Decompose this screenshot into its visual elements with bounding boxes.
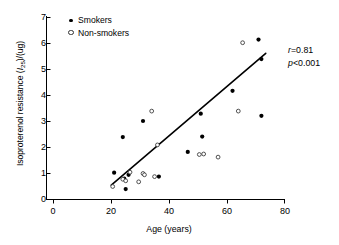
regression-line xyxy=(111,53,265,185)
data-point-smoker xyxy=(256,38,260,42)
data-point-smoker xyxy=(230,89,234,93)
data-point-smoker xyxy=(200,134,204,138)
data-point-smoker xyxy=(199,112,203,116)
y-axis-ticks xyxy=(47,18,51,174)
data-point-non-smoker xyxy=(124,179,128,183)
data-point-smoker xyxy=(112,171,116,175)
data-point-smoker xyxy=(186,150,190,154)
data-point-non-smoker xyxy=(153,175,157,179)
data-point-smoker xyxy=(259,114,263,118)
data-point-non-smoker xyxy=(241,41,245,45)
plot-area xyxy=(0,0,339,245)
scatter-chart-figure: Isoproterenol resistance (I25)/(ug) 0 1 … xyxy=(0,0,339,245)
data-point-smoker xyxy=(121,135,125,139)
data-point-non-smoker xyxy=(137,180,141,184)
data-point-non-smoker xyxy=(111,185,115,189)
data-points-non-smokers xyxy=(111,41,245,189)
data-point-smoker xyxy=(157,175,161,179)
data-point-non-smoker xyxy=(236,109,240,113)
data-point-non-smoker xyxy=(150,109,154,113)
data-point-non-smoker xyxy=(202,152,206,156)
data-point-non-smoker xyxy=(216,155,220,159)
x-axis-ticks xyxy=(54,200,285,204)
data-point-non-smoker xyxy=(156,143,160,147)
data-point-non-smoker xyxy=(128,170,132,174)
data-points-smokers xyxy=(112,38,263,192)
axis-lines xyxy=(46,16,285,200)
data-point-smoker xyxy=(141,119,145,123)
data-point-smoker xyxy=(124,187,128,191)
data-point-non-smoker xyxy=(197,153,201,157)
data-point-smoker xyxy=(259,57,263,61)
data-point-non-smoker xyxy=(143,173,147,177)
